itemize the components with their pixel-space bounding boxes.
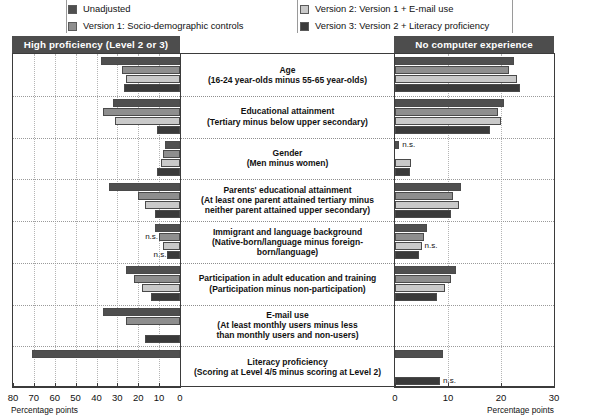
legend-column-2: Version 2: Version 1 + E-mail use Versio…: [300, 2, 489, 36]
chart-root: Unadjusted Version 1: Socio-demographic …: [0, 0, 595, 420]
category-label-line2: (At least monthly users minus less: [217, 320, 357, 330]
bar: [103, 308, 180, 316]
bar: [138, 192, 180, 200]
category-label: Parents' educational attainment(At least…: [181, 179, 394, 221]
bar: [134, 275, 180, 283]
axis-tick: [97, 383, 98, 388]
bar: [122, 66, 180, 74]
legend-label-version-2: Version 2: Version 1 + E-mail use: [315, 4, 453, 14]
category-separator: [13, 346, 180, 347]
x-axis-left: [12, 387, 181, 388]
category-separator: [13, 138, 180, 139]
bar: [395, 293, 437, 301]
significance-annotation: n.s.: [145, 233, 158, 241]
panel-title-left: High proficiency (Level 2 or 3): [12, 36, 180, 53]
bar: [126, 266, 180, 274]
x-axis-title-right: Percentage points: [487, 405, 554, 415]
x-axis-title-left: Percentage points: [11, 405, 78, 415]
legend-label-unadjusted: Unadjusted: [83, 4, 130, 14]
axis-tick-label: 0: [380, 392, 410, 403]
axis-tick-label: 0: [165, 392, 195, 403]
legend-divider-right: [512, 0, 513, 33]
bar: [115, 117, 180, 125]
legend-item-version-3: Version 3: Version 2 + Literacy proficie…: [300, 19, 489, 33]
category-label-line2: (Native-born/language minus foreign-born…: [185, 237, 390, 257]
legend-divider-mid: [297, 0, 298, 33]
significance-annotation: n.s.: [402, 141, 415, 149]
axis-tick: [13, 383, 14, 388]
bar: [395, 141, 399, 149]
axis-tick: [159, 383, 160, 388]
bar: [395, 275, 451, 283]
legend-column-1: Unadjusted Version 1: Socio-demographic …: [68, 2, 244, 36]
axis-tick: [76, 383, 77, 388]
bar: [395, 126, 490, 134]
axis-tick: [554, 383, 555, 388]
bar: [395, 117, 501, 125]
legend-swatch-version-1: [68, 22, 77, 31]
category-separator: [395, 305, 554, 306]
bar: [395, 350, 443, 358]
category-label-line1: E-mail use: [266, 310, 309, 320]
axis-tick: [448, 383, 449, 388]
bar: [395, 192, 453, 200]
legend-item-version-2: Version 2: Version 1 + E-mail use: [300, 2, 489, 16]
legend-item-unadjusted: Unadjusted: [68, 2, 244, 16]
category-label-line3: than monthly users and non-users): [216, 330, 358, 340]
category-separator: [13, 263, 180, 264]
bar: [103, 108, 180, 116]
legend-divider-left: [66, 0, 67, 33]
significance-annotation: n.s.: [443, 377, 456, 385]
axis-tick-label: 10: [433, 392, 463, 403]
axis-tick-label: 20: [486, 392, 516, 403]
legend: Unadjusted Version 1: Socio-demographic …: [0, 0, 595, 33]
category-separator: [395, 221, 554, 222]
category-label: Participation in adult education and tra…: [181, 263, 394, 305]
bar: [395, 99, 504, 107]
bar: [126, 317, 180, 325]
bar: [395, 159, 411, 167]
legend-label-version-1: Version 1: Socio-demographic controls: [83, 21, 244, 31]
bar: [159, 233, 180, 241]
category-label: Gender(Men minus women): [181, 138, 394, 180]
category-label-line1: Literacy proficiency: [247, 357, 327, 367]
bar: [155, 210, 180, 218]
category-label-line1: Participation in adult education and tra…: [199, 273, 377, 283]
axis-tick: [180, 383, 181, 388]
category-label-line3: neither parent attained upper secondary): [205, 205, 370, 215]
bar: [32, 350, 180, 358]
bar: [395, 233, 424, 241]
category-separator: [13, 96, 180, 97]
bar: [124, 84, 180, 92]
bar: [395, 224, 427, 232]
bar: [165, 141, 180, 149]
legend-swatch-version-3: [300, 22, 309, 31]
bar: [395, 108, 498, 116]
bar: [395, 266, 456, 274]
bar: [157, 168, 180, 176]
category-label-line2: (Scoring at Level 4/5 minus scoring at L…: [194, 367, 381, 377]
bar: [126, 75, 180, 83]
bar: [395, 66, 509, 74]
category-separator: [13, 221, 180, 222]
bar: [395, 210, 451, 218]
category-separator: [395, 346, 554, 347]
bar: [155, 224, 180, 232]
category-label: Literacy proficiency(Scoring at Level 4/…: [181, 346, 394, 388]
bar: [161, 159, 180, 167]
bar: [163, 150, 180, 158]
category-separator: [395, 138, 554, 139]
category-separator: [395, 96, 554, 97]
bar: [395, 242, 422, 250]
bar: [395, 57, 514, 65]
category-label-line1: Immigrant and language background: [213, 227, 362, 237]
category-label: Immigrant and language background(Native…: [181, 221, 394, 263]
bar: [101, 57, 180, 65]
category-label-line1: Parents' educational attainment: [223, 185, 351, 195]
bar: [395, 201, 459, 209]
legend-swatch-version-2: [300, 5, 309, 14]
category-separator: [13, 179, 180, 180]
category-label-line2: (At least one parent attained tertiary m…: [201, 195, 374, 205]
axis-tick: [138, 383, 139, 388]
bar: [145, 201, 180, 209]
